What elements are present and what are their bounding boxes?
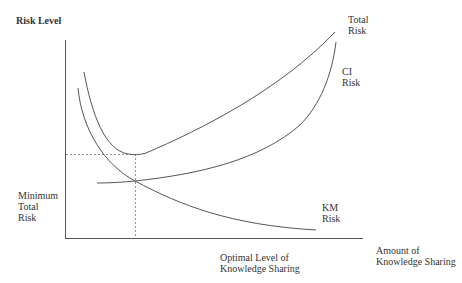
minimum-total-risk-line1: Minimum	[18, 190, 58, 201]
total-risk-curve	[84, 32, 335, 155]
km-risk-label-line1: KM	[322, 202, 340, 213]
x-axis-label-line1: Amount of	[376, 245, 456, 256]
risk-diagram	[0, 0, 462, 283]
y-axis-label: Risk Level	[16, 15, 61, 26]
total-risk-label-line1: Total	[348, 14, 368, 25]
ci-risk-label: CI Risk	[342, 66, 360, 88]
optimal-level-line2: Knowledge Sharing	[220, 263, 300, 274]
x-axis-label-line2: Knowledge Sharing	[376, 256, 456, 267]
km-risk-label-line2: Risk	[322, 213, 340, 224]
ci-risk-label-line2: Risk	[342, 77, 360, 88]
minimum-total-risk-line3: Risk	[18, 212, 58, 223]
minimum-total-risk-line2: Total	[18, 201, 58, 212]
km-risk-label: KM Risk	[322, 202, 340, 224]
optimal-level-label: Optimal Level of Knowledge Sharing	[220, 252, 300, 274]
x-axis-label: Amount of Knowledge Sharing	[376, 245, 456, 267]
km-risk-curve	[78, 88, 316, 230]
minimum-total-risk-label: Minimum Total Risk	[18, 190, 58, 223]
ci-risk-label-line1: CI	[342, 66, 360, 77]
total-risk-label-line2: Risk	[348, 25, 368, 36]
optimal-level-line1: Optimal Level of	[220, 252, 300, 263]
total-risk-label: Total Risk	[348, 14, 368, 36]
ci-risk-curve	[97, 42, 336, 183]
